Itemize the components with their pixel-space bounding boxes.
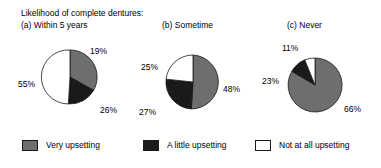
pie-b-value-a-little-upsetting: 27% [139, 107, 156, 117]
pie-chart-a [43, 50, 97, 104]
pie-a-value-a-little-upsetting: 26% [100, 105, 117, 115]
pie-chart-figure: Likelihood of complete dentures: (a) Wit… [0, 0, 381, 168]
pie-c-value-a-little-upsetting: 23% [262, 76, 279, 86]
legend-swatch-a-little-upsetting [143, 140, 159, 151]
panel-label-a: (a) Within 5 years [21, 20, 143, 32]
pie-b-value-not-at-all-upsetting: 25% [141, 62, 158, 72]
pie-c-value-not-at-all-upsetting: 11% [282, 43, 298, 53]
pie-a-value-not-at-all-upsetting: 55% [18, 79, 35, 89]
pie-slice-b-very-upsetting [191, 55, 218, 109]
legend-label-a-little-upsetting: A little upsetting [167, 140, 227, 151]
legend-label-very-upsetting: Very upsetting [46, 140, 100, 151]
chart-title: Likelihood of complete dentures: [21, 8, 143, 20]
pie-slice-a-not-at-all-upsetting [41, 50, 70, 104]
chart-legend: Very upsetting A little upsetting Not at… [0, 136, 381, 156]
legend-swatch-very-upsetting [22, 140, 38, 151]
pie-chart-b [166, 55, 220, 109]
legend-label-not-at-all-upsetting: Not at all upsetting [279, 140, 349, 151]
legend-item-a-little-upsetting: A little upsetting [143, 137, 227, 153]
legend-item-very-upsetting: Very upsetting [22, 137, 100, 153]
pie-a-value-very-upsetting: 19% [90, 46, 107, 56]
panel-label-c: (c) Never [287, 20, 322, 32]
pie-b-value-very-upsetting: 48% [223, 84, 240, 94]
chart-title-block: Likelihood of complete dentures: (a) Wit… [21, 8, 143, 31]
pie-c-value-very-upsetting: 66% [344, 104, 361, 114]
pie-chart-c [288, 58, 342, 112]
panel-label-b: (b) Sometime [162, 20, 213, 32]
legend-item-not-at-all-upsetting: Not at all upsetting [255, 137, 349, 153]
pie-slice-b-a-little-upsetting [166, 79, 193, 109]
pie-slice-b-not-at-all-upsetting [166, 55, 193, 82]
legend-swatch-not-at-all-upsetting [255, 140, 271, 151]
